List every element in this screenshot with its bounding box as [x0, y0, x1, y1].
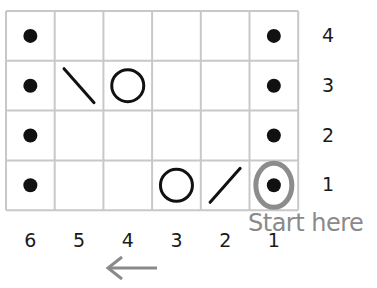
purl-dot-icon: [23, 79, 37, 93]
knitting-chart: [0, 0, 377, 288]
column-label: 4: [122, 229, 134, 251]
purl-dot-icon: [267, 79, 281, 93]
slash-decrease-icon: [210, 168, 240, 202]
yarn-over-circle-icon: [112, 70, 144, 102]
column-label: 2: [219, 229, 231, 251]
backslash-decrease-icon: [64, 69, 94, 103]
column-label: 5: [73, 229, 85, 251]
row-label: 3: [322, 74, 334, 96]
purl-dot-icon: [23, 29, 37, 43]
chart-symbols: [23, 29, 292, 207]
purl-dot-icon: [23, 178, 37, 192]
purl-dot-icon: [267, 29, 281, 43]
row-label: 4: [322, 24, 334, 46]
left-arrow-icon: [108, 257, 157, 279]
purl-dot-icon: [267, 178, 281, 192]
purl-dot-icon: [23, 129, 37, 143]
row-label: 2: [322, 124, 334, 146]
column-label: 6: [24, 229, 36, 251]
column-label: 3: [170, 229, 182, 251]
purl-dot-icon: [267, 129, 281, 143]
start-here-label: Start here: [248, 209, 363, 237]
row-label: 1: [322, 173, 334, 195]
yarn-over-circle-icon: [160, 169, 192, 201]
